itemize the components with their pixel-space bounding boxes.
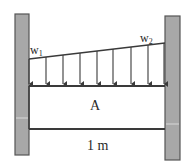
left-wall xyxy=(15,14,29,155)
distributed-load-arrows xyxy=(29,43,164,84)
right-wall xyxy=(165,16,180,160)
w1-load-label: w1 xyxy=(30,44,43,58)
cross-section-area-label: A xyxy=(90,99,100,113)
beam-length-label: 1 m xyxy=(87,139,108,153)
w2-load-label: w2 xyxy=(140,32,153,46)
